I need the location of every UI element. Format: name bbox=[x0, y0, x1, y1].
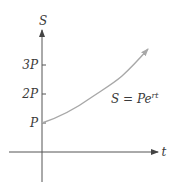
exponential-growth-chart: P 2P 3P S t S = Pert bbox=[0, 0, 172, 192]
x-axis-label: t bbox=[162, 145, 167, 159]
equation-exponent: rt bbox=[152, 91, 160, 100]
equation-label: S = Pert bbox=[111, 91, 159, 106]
y-axis-label: S bbox=[39, 14, 47, 28]
tick-label-3p: 3P bbox=[22, 58, 39, 72]
tick-label-p: P bbox=[29, 116, 39, 130]
growth-curve bbox=[42, 49, 148, 123]
tick-label-2p: 2P bbox=[21, 87, 39, 101]
equation-main: S = Pe bbox=[111, 92, 152, 106]
